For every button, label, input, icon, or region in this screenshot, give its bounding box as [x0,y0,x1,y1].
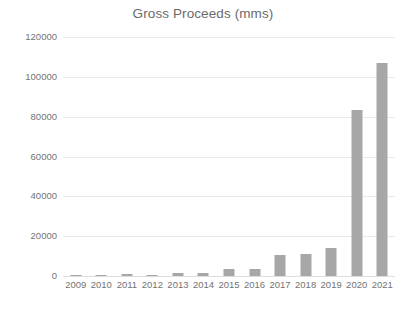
bar-slot [267,37,293,276]
y-tick-label: 60000 [0,152,57,162]
y-tick-label: 40000 [0,192,57,202]
bar-slot [216,37,242,276]
bar-slot [318,37,344,276]
x-tick-label: 2010 [91,280,112,290]
gridline-0 [63,276,395,277]
bar-slot [344,37,370,276]
bar-slot [63,37,89,276]
bars-layer [63,37,395,276]
y-tick-label: 0 [0,271,57,281]
x-tick-label: 2011 [117,280,137,290]
bar-2017[interactable] [275,255,286,276]
y-tick-label: 20000 [0,231,57,241]
y-tick-label: 100000 [0,72,57,82]
chart-title: Gross Proceeds (mms) [0,6,406,21]
x-tick-label: 2016 [244,280,265,290]
bar-slot [242,37,268,276]
x-tick-label: 2009 [65,280,86,290]
x-tick-label: 2020 [346,280,367,290]
x-tick-label: 2012 [142,280,163,290]
x-axis: 2009201020112012201320142015201620172018… [63,280,395,296]
x-tick-label: 2021 [372,280,393,290]
bar-2018[interactable] [300,254,311,276]
bar-chart: Gross Proceeds (mms) 0200004000060000800… [0,0,406,310]
x-tick-label: 2014 [193,280,214,290]
bar-2019[interactable] [326,248,337,276]
bar-slot [140,37,166,276]
bar-2009[interactable] [70,275,81,276]
bar-slot [165,37,191,276]
bar-2016[interactable] [249,269,260,276]
y-tick-label: 80000 [0,112,57,122]
bar-slot [114,37,140,276]
bar-2012[interactable] [147,275,158,276]
bar-slot [369,37,395,276]
x-tick-label: 2015 [218,280,239,290]
bar-2014[interactable] [198,273,209,276]
bar-slot [191,37,217,276]
x-tick-label: 2019 [321,280,342,290]
bar-2020[interactable] [351,110,362,276]
bar-slot [89,37,115,276]
y-tick-label: 120000 [0,32,57,42]
x-tick-label: 2013 [167,280,188,290]
bar-2011[interactable] [121,274,132,276]
bar-2010[interactable] [96,275,107,276]
y-axis: 020000400006000080000100000120000 [0,37,57,276]
bar-2015[interactable] [223,269,234,276]
bar-2013[interactable] [172,273,183,276]
bar-slot [293,37,319,276]
x-tick-label: 2018 [295,280,316,290]
x-tick-label: 2017 [269,280,290,290]
bar-2021[interactable] [377,63,388,276]
